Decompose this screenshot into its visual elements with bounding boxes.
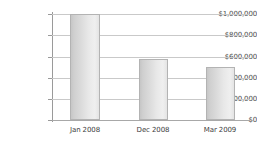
bar-jan-2008 (70, 14, 100, 120)
x-axis-label-dec-2008: Dec 2008 (118, 126, 188, 135)
plot-area (52, 10, 250, 120)
gridline-baseline-0 (52, 120, 250, 121)
x-axis-label-jan-2008: Jan 2008 (50, 126, 120, 135)
bar-mar-2009 (206, 67, 235, 120)
bar-dec-2008 (139, 59, 168, 120)
bar-chart: $1,000,000 $800,000 $600,000 $400,000 $2… (0, 0, 257, 149)
x-axis-label-mar-2009: Mar 2009 (185, 126, 255, 135)
